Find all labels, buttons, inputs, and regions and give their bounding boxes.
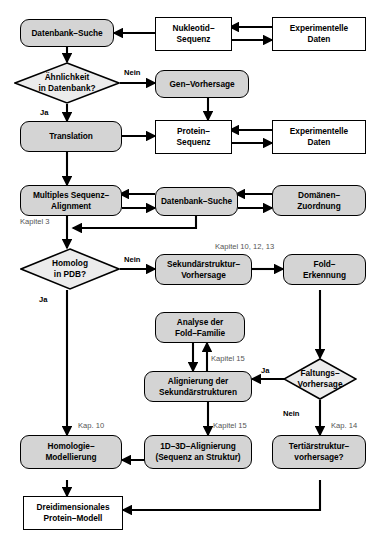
node-label: Alignierung der Sekundärstrukturen [159, 376, 237, 398]
node-label: Analyse der Fold–Familie [175, 317, 225, 339]
node-faltungs-vorhersage-decision[interactable]: Faltungs– Vorhersage [283, 358, 357, 400]
node-dreidimensionales-protein-modell[interactable]: Dreidimensionales Protein–Modell [23, 496, 123, 530]
node-label: Datenbank–Suche [161, 196, 232, 207]
node-sekundaerstruktur-vorhersage[interactable]: Sekundärstruktur– Vorhersage [155, 254, 252, 285]
node-tertiaerstruktur-vorhersage[interactable]: Tertiärstruktur– vorhersage? [272, 435, 366, 469]
node-analyse-fold-familie[interactable]: Analyse der Fold–Familie [155, 312, 245, 343]
node-gen-vorhersage[interactable]: Gen–Vorhersage [155, 70, 249, 98]
edge-label-nein-3: Nein [283, 409, 299, 418]
node-protein-sequenz[interactable]: Protein– Sequenz [155, 120, 232, 154]
node-label: Multiples Sequenz– Alignment [33, 190, 109, 212]
edge-label-ja-2: Ja [39, 295, 47, 304]
node-homologie-modellierung[interactable]: Homologie– Modellierung [20, 435, 122, 469]
node-label: Dreidimensionales Protein–Modell [37, 502, 110, 524]
node-label: Sekundärstruktur– Vorhersage [167, 259, 240, 281]
node-label: Domänen– Zuordnung [297, 190, 340, 212]
node-label: Protein– Sequenz [177, 126, 211, 148]
node-label: Faltungs– Vorhersage [297, 368, 342, 390]
node-alignierung-sekundaerstrukturen[interactable]: Alignierung der Sekundärstrukturen [144, 371, 252, 402]
chapter-label-kapitel-10-12-13: Kapitel 10, 12, 13 [215, 242, 274, 251]
edge-label-nein-1: Nein [124, 68, 140, 77]
node-multiples-sequenz-alignment[interactable]: Multiples Sequenz– Alignment [20, 185, 122, 216]
node-label: Nukleotid– Sequenz [173, 23, 215, 45]
node-label: Homologie– Modellierung [45, 441, 96, 463]
chapter-label-kapitel-15-a: Kapitel 15 [211, 354, 245, 363]
node-nukleotid-sequenz[interactable]: Nukleotid– Sequenz [155, 17, 232, 51]
node-datenbank-suche-2[interactable]: Datenbank–Suche [155, 187, 238, 216]
edge-label-ja-1: Ja [40, 108, 48, 117]
node-domaenen-zuordnung[interactable]: Domänen– Zuordnung [272, 185, 366, 216]
edge-label-nein-2: Nein [124, 255, 140, 264]
flowchart-diagram: Datenbank–Suche Nukleotid– Sequenz Exper… [0, 0, 381, 548]
node-label: Homolog in PDB? [52, 258, 88, 280]
chapter-label-kapitel-15-b: Kapitel 15 [213, 421, 247, 430]
node-label: Translation [49, 131, 93, 142]
node-label: 1D–3D–Alignierung (Sequenz an Struktur) [155, 441, 240, 463]
chapter-label-kapitel-3: Kapitel 3 [20, 217, 50, 226]
edge-label-ja-3: Ja [261, 366, 269, 375]
node-homolog-pdb-decision[interactable]: Homolog in PDB? [20, 248, 120, 290]
node-experimentelle-daten-1[interactable]: Experimentelle Daten [272, 17, 366, 51]
node-translation[interactable]: Translation [20, 121, 122, 152]
node-aehnlichkeit-decision[interactable]: Ähnlichkeit in Datenbank? [14, 62, 120, 104]
node-fold-erkennung[interactable]: Fold– Erkennung [283, 254, 366, 285]
node-label: Experimentelle Daten [290, 126, 348, 148]
node-label: Experimentelle Daten [290, 23, 348, 45]
node-label: Datenbank–Suche [31, 28, 102, 39]
node-label: Gen–Vorhersage [169, 79, 234, 90]
node-label: Tertiärstruktur– vorhersage? [289, 441, 349, 463]
chapter-label-kap-14: Kap. 14 [331, 421, 357, 430]
node-datenbank-suche-1[interactable]: Datenbank–Suche [20, 19, 114, 47]
node-1d-3d-alignierung[interactable]: 1D–3D–Alignierung (Sequenz an Struktur) [144, 435, 252, 469]
node-label: Fold– Erkennung [303, 259, 346, 281]
chapter-label-kap-10: Kap. 10 [78, 421, 104, 430]
node-label: Ähnlichkeit in Datenbank? [38, 72, 95, 94]
node-experimentelle-daten-2[interactable]: Experimentelle Daten [272, 120, 366, 154]
